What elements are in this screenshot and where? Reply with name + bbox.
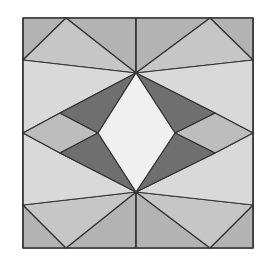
quilt-pattern-diagram <box>0 0 270 265</box>
pattern-shapes <box>23 18 253 248</box>
